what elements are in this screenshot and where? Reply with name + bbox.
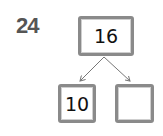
part-box-left: 10 xyxy=(58,84,96,123)
part-box-right-empty[interactable] xyxy=(115,84,154,123)
arrow-left xyxy=(80,57,104,81)
arrow-right xyxy=(104,57,130,81)
whole-box: 16 xyxy=(78,16,134,56)
